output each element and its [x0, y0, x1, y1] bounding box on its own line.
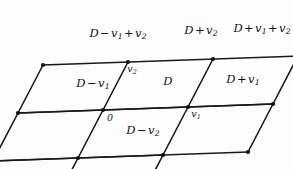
cell-label-1-2: D+v1: [226, 74, 259, 87]
vertex-label-v2: v2: [127, 64, 136, 75]
cell-label-1-0: D−v1: [76, 78, 109, 91]
cell-label-1-1: D: [163, 76, 172, 88]
cell-label-0-1: D+v2: [184, 25, 217, 38]
cell-label-0-0: D−v1+v2: [89, 28, 146, 41]
cell-label-2-1: D−v2: [126, 125, 159, 138]
vertex-label-v1: v1: [191, 109, 200, 120]
cell-label-0-2: D+v1+v2: [233, 23, 290, 36]
lattice-diagram: D−v1+v2D+v2D+v1+v2D−v1DD+v1D−v2 v20v1: [0, 0, 293, 169]
vertex-label-origin: 0: [107, 113, 113, 123]
